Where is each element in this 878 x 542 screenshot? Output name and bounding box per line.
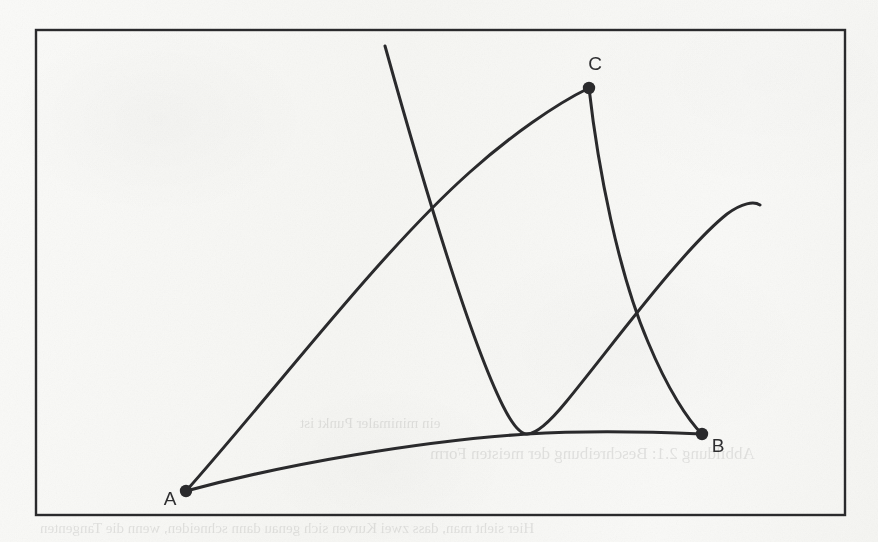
point-marker-c: [583, 82, 595, 94]
curve-A-to-B: [186, 432, 702, 491]
point-label-c: C: [588, 53, 602, 74]
curve-parabola: [385, 46, 760, 434]
curve-A-to-C: [186, 88, 589, 491]
point-marker-b: [696, 428, 708, 440]
figure-page: Abbildung 2.1: Beschreibung der meisten …: [0, 0, 878, 542]
curves-group: [186, 46, 760, 491]
figure-drawing: A B C: [0, 0, 878, 542]
point-label-b: B: [712, 435, 725, 456]
point-marker-a: [180, 485, 192, 497]
point-label-a: A: [164, 488, 177, 509]
curve-C-to-B: [589, 88, 702, 434]
